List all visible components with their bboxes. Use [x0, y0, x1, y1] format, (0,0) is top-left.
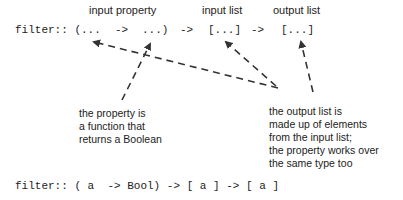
- arrow-to-input-list: [226, 42, 276, 86]
- note-property: the property is a function that returns …: [79, 107, 162, 146]
- arrow-to-output-list: [301, 42, 313, 92]
- note-property-line: a function that: [79, 120, 162, 133]
- note-output: the output list is made up of elements f…: [269, 105, 379, 170]
- note-property-line: the property is: [79, 107, 162, 120]
- signature-bottom: filter:: ( a -> Bool) -> [ a ] -> [ a ]: [15, 180, 279, 192]
- note-output-line: the same type too: [269, 157, 379, 170]
- note-output-line: the output list is: [269, 105, 379, 118]
- note-property-line: returns a Boolean: [79, 133, 162, 146]
- arrows-layer: [0, 0, 403, 200]
- note-output-line: made up of elements: [269, 118, 379, 131]
- note-output-line: the property works over: [269, 144, 379, 157]
- note-output-line: from the input list;: [269, 131, 379, 144]
- arrow-to-arg: [94, 42, 278, 88]
